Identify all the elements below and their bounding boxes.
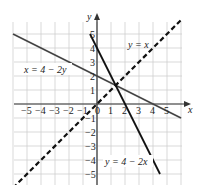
svg-text:−1: −1: [85, 113, 96, 124]
svg-text:5: 5: [90, 29, 95, 40]
svg-text:4: 4: [150, 105, 155, 116]
axes: [14, 13, 191, 185]
svg-text:4: 4: [90, 43, 95, 54]
svg-text:−2: −2: [85, 127, 96, 138]
chart-canvas: −5−4−3−2−1012345−5−4−3−2−112345 x y x = …: [0, 0, 201, 185]
svg-text:−5: −5: [21, 105, 32, 116]
svg-text:−5: −5: [85, 169, 96, 180]
svg-text:0: 0: [95, 105, 100, 116]
svg-text:1: 1: [108, 105, 113, 116]
svg-text:2: 2: [90, 71, 95, 82]
svg-text:−4: −4: [85, 155, 96, 166]
line-label-x-eq-4-minus-2y: x = 4 − 2y: [23, 64, 67, 75]
svg-text:−3: −3: [49, 105, 60, 116]
svg-text:−4: −4: [35, 105, 46, 116]
svg-text:2: 2: [122, 105, 127, 116]
svg-text:3: 3: [136, 105, 141, 116]
y-axis-label: y: [86, 11, 92, 22]
svg-text:3: 3: [90, 57, 95, 68]
svg-text:1: 1: [90, 85, 95, 96]
svg-text:−2: −2: [63, 105, 74, 116]
line-label-y-eq-x: y = x: [127, 39, 149, 50]
line-label-y-eq-4-minus-2x: y = 4 − 2x: [104, 156, 148, 167]
x-axis-label: x: [187, 104, 193, 115]
svg-text:−3: −3: [85, 141, 96, 152]
svg-text:5: 5: [164, 105, 169, 116]
